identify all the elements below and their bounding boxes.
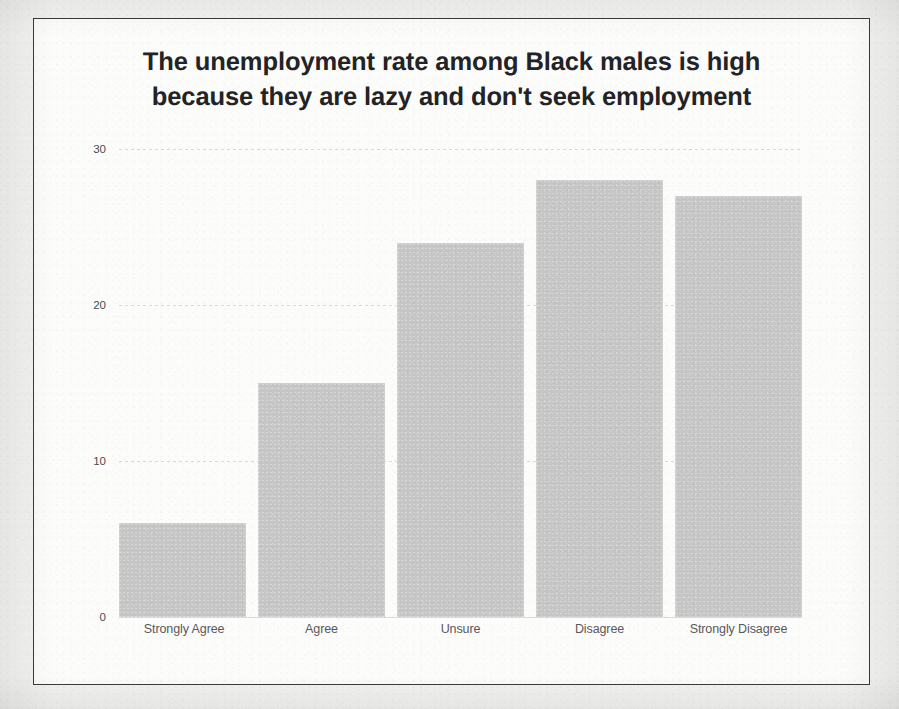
y-axis-tick-label-30: 30 bbox=[93, 143, 106, 155]
bar[interactable] bbox=[258, 383, 385, 617]
bar-slot: Agree bbox=[258, 149, 385, 617]
chart-title-line-1: The unemployment rate among Black males … bbox=[34, 45, 869, 80]
figure-frame: The unemployment rate among Black males … bbox=[33, 18, 870, 685]
bar-slot: Disagree bbox=[536, 149, 663, 617]
bar-slot: Strongly Agree bbox=[119, 149, 246, 617]
bar-slot: Unsure bbox=[397, 149, 524, 617]
plot-area: 0102030 Strongly AgreeAgreeUnsureDisagre… bbox=[119, 149, 802, 617]
x-axis-category-label: Strongly Disagree bbox=[690, 622, 788, 636]
chart-title-line-2: because they are lazy and don't seek emp… bbox=[34, 80, 869, 115]
x-axis-category-label: Unsure bbox=[441, 622, 481, 636]
bar[interactable] bbox=[397, 243, 524, 617]
y-axis-tick-label-20: 20 bbox=[93, 299, 106, 311]
x-axis-category-label: Disagree bbox=[575, 622, 624, 636]
x-axis-category-label: Strongly Agree bbox=[144, 622, 225, 636]
bar-group: Strongly AgreeAgreeUnsureDisagreeStrongl… bbox=[119, 149, 802, 617]
gridline-0 bbox=[119, 617, 802, 618]
bar-slot: Strongly Disagree bbox=[675, 149, 802, 617]
figure-inner: The unemployment rate among Black males … bbox=[34, 19, 869, 684]
bar[interactable] bbox=[536, 180, 663, 617]
chart-title: The unemployment rate among Black males … bbox=[34, 45, 869, 115]
y-axis-tick-label-10: 10 bbox=[93, 455, 106, 467]
y-axis-tick-label-0: 0 bbox=[100, 611, 106, 623]
bar[interactable] bbox=[119, 523, 246, 617]
x-axis-category-label: Agree bbox=[305, 622, 338, 636]
bar[interactable] bbox=[675, 196, 802, 617]
